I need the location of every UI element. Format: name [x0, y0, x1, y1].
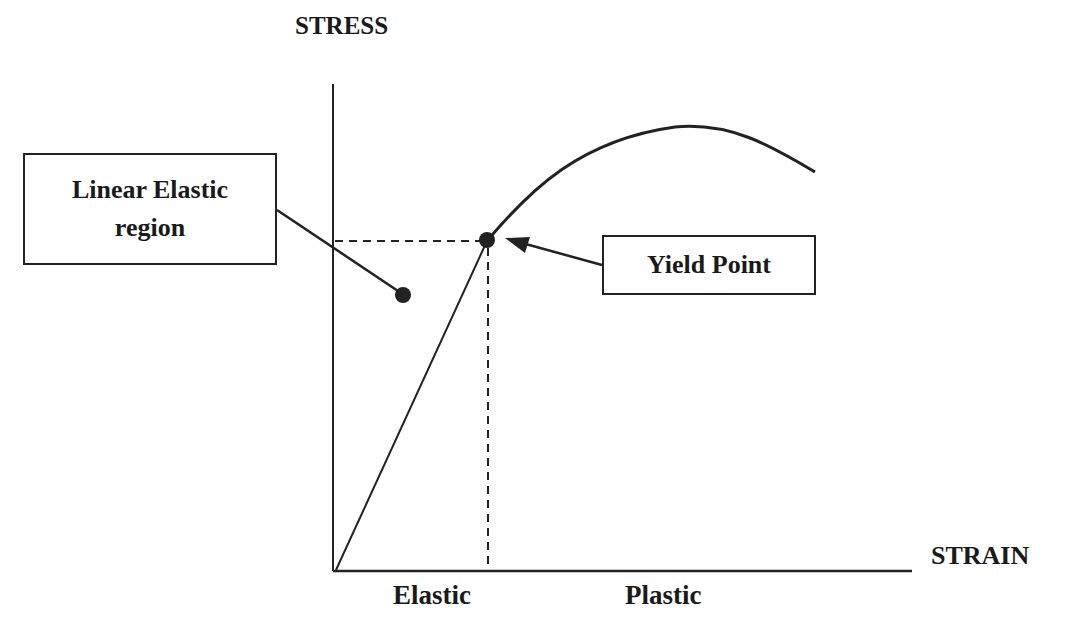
y-axis-label: STRESS — [295, 12, 388, 40]
plastic-curve — [487, 126, 815, 241]
yield-callout-leader — [522, 243, 602, 265]
linear-elastic-line1: Linear Elastic — [72, 171, 228, 209]
elastic-region-label: Elastic — [393, 580, 471, 611]
elastic-line — [336, 241, 487, 570]
x-axis-label: STRAIN — [931, 541, 1029, 571]
elastic-callout-leader — [277, 210, 398, 291]
arrowhead-icon — [505, 237, 530, 253]
linear-elastic-line2: region — [115, 209, 185, 247]
yield-point-marker — [479, 232, 495, 248]
linear-elastic-callout: Linear Elastic region — [23, 153, 277, 265]
stress-strain-diagram — [0, 0, 1070, 627]
yield-point-label: Yield Point — [647, 250, 771, 280]
plastic-region-label: Plastic — [625, 580, 701, 611]
yield-point-callout: Yield Point — [602, 235, 816, 295]
